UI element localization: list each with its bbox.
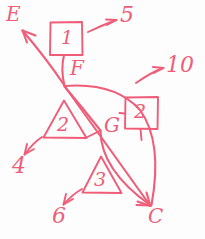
diagram-svg: .stroke { fill: none; stroke: #ef5d78; s… bbox=[0, 0, 205, 239]
callout-label-5: 5 bbox=[120, 4, 134, 26]
callout-label-6: 6 bbox=[52, 205, 66, 227]
callout-label-4: 4 bbox=[12, 155, 26, 177]
box-1-number: 1 bbox=[61, 28, 73, 47]
edge-box1-to-f bbox=[62, 55, 64, 86]
vertex-label-g: G bbox=[104, 115, 120, 135]
callout-label-10: 10 bbox=[166, 54, 194, 76]
callout-arrow-4 bbox=[25, 137, 43, 155]
vertex-label-f: F bbox=[70, 58, 84, 78]
edge-f-to-e bbox=[23, 31, 65, 86]
callout-arrow-10 bbox=[136, 67, 164, 83]
vertex-label-c: C bbox=[148, 206, 163, 226]
callout-arrow-5 bbox=[88, 20, 117, 33]
vertex-label-e: E bbox=[6, 4, 21, 24]
connector-box2-to-g bbox=[120, 113, 126, 114]
connector-box2-down bbox=[141, 129, 142, 140]
triangle-2-number: 2 bbox=[57, 115, 69, 134]
triangle-3-number: 3 bbox=[94, 170, 106, 189]
sketch-canvas: .stroke { fill: none; stroke: #ef5d78; s… bbox=[0, 0, 205, 239]
callout-arrow-6 bbox=[64, 189, 83, 205]
box-2-number: 2 bbox=[134, 102, 146, 121]
